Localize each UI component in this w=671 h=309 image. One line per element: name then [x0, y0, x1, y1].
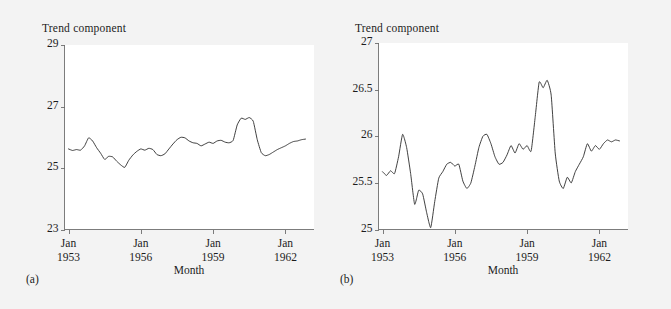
y-tick-label: 23 [17, 222, 59, 234]
panel-b: Trend component 2726.52625.525 Jan1953Ja… [336, 0, 671, 309]
y-tick-label: 26.5 [331, 82, 373, 94]
panel-caption-b: (b) [340, 273, 353, 285]
x-axis-title-a: Month [139, 264, 239, 276]
x-tick-label: Jan1962 [250, 236, 320, 264]
x-tick-label: Jan1959 [178, 236, 248, 264]
y-tick-label: 25.5 [331, 175, 373, 187]
x-axis-title-b: Month [453, 264, 553, 276]
x-tick-label: Jan1959 [492, 236, 562, 264]
trend-line-b [383, 80, 620, 227]
y-tick-label: 26 [331, 128, 373, 140]
x-tick-label: Jan1956 [420, 236, 490, 264]
figure-container: Trend component 29272523 Jan1953Jan1956J… [0, 0, 671, 309]
y-tick-label: 29 [17, 37, 59, 49]
x-tick-label: Jan1962 [564, 236, 634, 264]
panel-caption-a: (a) [26, 273, 39, 285]
x-tick-label: Jan1953 [348, 236, 418, 264]
y-tick-label: 27 [331, 35, 373, 47]
trend-line-a [69, 118, 306, 168]
panel-a: Trend component 29272523 Jan1953Jan1956J… [0, 0, 335, 309]
y-tick-label: 27 [17, 99, 59, 111]
x-tick-label: Jan1953 [34, 236, 104, 264]
y-tick-label: 25 [17, 160, 59, 172]
y-tick-label: 25 [331, 222, 373, 234]
x-tick-label: Jan1956 [106, 236, 176, 264]
